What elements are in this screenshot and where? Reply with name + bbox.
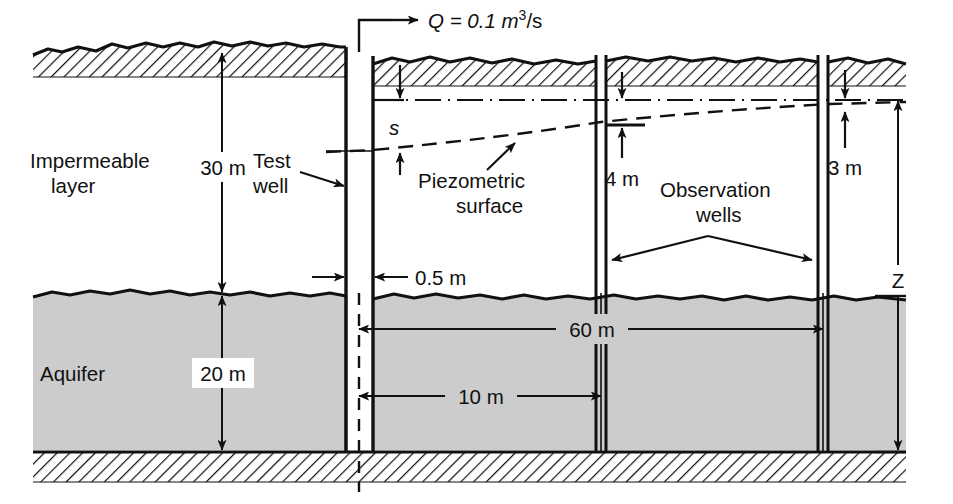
impermeable-layer-label-line1: Impermeable	[30, 149, 150, 172]
discharge-label: Q = 0.1 m3/s	[428, 7, 542, 32]
discharge-pipe	[359, 20, 392, 52]
dimension-30m: 30 m	[192, 53, 254, 292]
dimension-4m: 4 m	[605, 72, 639, 190]
impermeable-layer-top-right-b	[828, 55, 906, 88]
dimension-20m-label: 20 m	[200, 362, 246, 385]
dimension-10m-label: 10 m	[458, 385, 504, 408]
piezometric-leader	[487, 143, 515, 170]
impermeable-layer-top-middle	[373, 55, 596, 88]
test-well-label-line1: Test	[253, 149, 291, 172]
observation-wells-leader-right	[708, 236, 812, 260]
dimension-well-diameter: 0.5 m	[312, 266, 466, 289]
dimension-4m-label: 4 m	[605, 167, 639, 190]
impermeable-layer-top-right-a	[606, 55, 818, 88]
observation-wells-label-line1: Observation	[660, 178, 771, 201]
piezometric-label-line1: Piezometric	[418, 169, 525, 192]
observation-wells-leader-left	[612, 236, 708, 260]
impermeable-layer-top-left	[33, 42, 346, 78]
drawdown-symbol-label: s	[389, 116, 399, 139]
test-well-leader	[300, 172, 344, 186]
aquifer-layer-right	[373, 294, 906, 450]
dimension-well-diameter-label: 0.5 m	[415, 266, 466, 289]
dimension-Z-label: Z	[892, 269, 905, 292]
dimension-60m-label: 60 m	[569, 318, 615, 341]
observation-wells-label-line2: wells	[695, 203, 742, 226]
dimension-30m-label: 30 m	[200, 156, 246, 179]
observation-well-2[interactable]	[818, 55, 828, 452]
diagram-canvas: 30 m 20 m 0.5 m 60 m 10 m s 4 m	[0, 0, 953, 504]
impermeable-layer-bottom	[33, 452, 906, 482]
aquifer-cross-section-diagram: 30 m 20 m 0.5 m 60 m 10 m s 4 m	[0, 0, 953, 504]
test-well-label-line2: well	[252, 174, 288, 197]
dimension-3m-label: 3 m	[828, 156, 862, 179]
impermeable-layer-label-line2: layer	[51, 174, 96, 197]
piezometric-label-line2: surface	[456, 194, 523, 217]
aquifer-label: Aquifer	[40, 362, 105, 385]
